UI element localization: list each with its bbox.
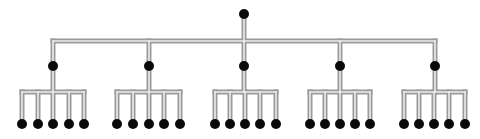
child-node-4	[335, 61, 345, 71]
root-node	[239, 9, 249, 19]
leaf-node-4-3	[335, 119, 345, 129]
leaf-node-1-4	[64, 119, 74, 129]
leaf-node-4-1	[305, 119, 315, 129]
leaf-node-5-5	[460, 119, 470, 129]
child-node-1	[48, 61, 58, 71]
leaf-node-3-4	[255, 119, 265, 129]
tree-diagram-canvas	[0, 0, 480, 139]
child-node-3	[239, 61, 249, 71]
leaf-node-1-1	[17, 119, 27, 129]
leaf-node-3-3	[240, 119, 250, 129]
leaf-node-2-5	[175, 119, 185, 129]
leaf-node-4-5	[365, 119, 375, 129]
leaf-node-1-2	[33, 119, 43, 129]
child-node-5	[430, 61, 440, 71]
leaf-node-3-2	[225, 119, 235, 129]
leaf-node-5-2	[414, 119, 424, 129]
leaf-node-4-2	[320, 119, 330, 129]
leaf-node-3-5	[271, 119, 281, 129]
leaf-node-2-3	[144, 119, 154, 129]
tree-diagram	[0, 0, 480, 139]
leaf-node-2-2	[128, 119, 138, 129]
child-node-2	[144, 61, 154, 71]
leaf-node-2-1	[112, 119, 122, 129]
leaf-node-5-4	[444, 119, 454, 129]
leaf-node-4-4	[350, 119, 360, 129]
leaf-node-1-3	[48, 119, 58, 129]
leaf-node-5-1	[399, 119, 409, 129]
leaf-node-5-3	[429, 119, 439, 129]
leaf-node-3-1	[210, 119, 220, 129]
leaf-node-1-5	[79, 119, 89, 129]
leaf-node-2-4	[159, 119, 169, 129]
